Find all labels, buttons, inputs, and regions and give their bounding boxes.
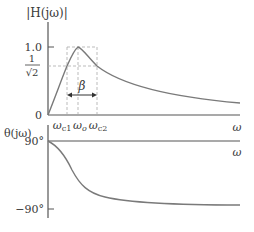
tick-label-inv-sqrt2-den: √2 [26, 67, 39, 78]
bandwidth-arrow [67, 93, 97, 98]
omega-c2-label: ωc2 [89, 119, 108, 133]
magnitude-y-axis-label: |H(jω)| [26, 6, 67, 20]
bandpass-bode-diagram: β |H(jω)| 1.0 1 √2 0 ω ωc1 ωo ωc2 θ(jω) … [0, 0, 254, 232]
magnitude-curve [48, 47, 240, 115]
tick-label-inv-sqrt2-num: 1 [29, 53, 35, 64]
tick-label-0: 0 [35, 109, 42, 122]
omega-o-label: ωo [73, 119, 87, 133]
tick-label-minus-90: −90° [15, 203, 44, 216]
phase-plot: θ(jω) 90° −90° ω [4, 125, 242, 218]
magnitude-plot: β |H(jω)| 1.0 1 √2 0 ω ωc1 ωo ωc2 [25, 6, 242, 134]
phase-x-axis-label: ω [233, 146, 242, 159]
tick-label-90: 90° [25, 135, 45, 148]
omega-c1-label: ωc1 [53, 119, 72, 133]
bandwidth-label: β [78, 79, 86, 93]
phase-curve [48, 141, 240, 205]
magnitude-x-axis-label: ω [233, 121, 242, 134]
